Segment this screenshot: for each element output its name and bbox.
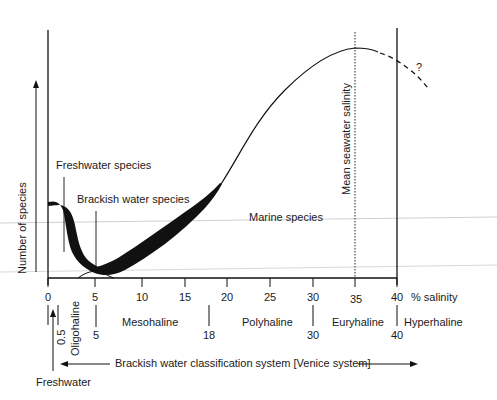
euryhaline-label: Euryhaline — [332, 317, 384, 328]
freshwater-species-curve — [48, 201, 108, 274]
bound-0.5-label: 0.5 — [56, 330, 67, 345]
mean-seawater-label: Mean seawater salinity — [341, 83, 352, 195]
venice-system-label: Brackish water classification system [Ve… — [115, 358, 371, 369]
arrow-head-icon — [410, 361, 418, 367]
freshwater-species-label: Freshwater species — [56, 160, 151, 171]
x-tick-label: 30 — [307, 292, 319, 303]
mesohaline-label: Mesohaline — [122, 317, 178, 328]
oligohaline-label: Oligohaline — [70, 301, 81, 356]
arrow-head-icon — [60, 361, 68, 367]
bound-5-label: 5 — [93, 330, 99, 341]
faint-guide-line — [0, 265, 497, 272]
arrow-head-icon — [50, 309, 56, 317]
freshwater-label: Freshwater — [36, 377, 91, 388]
x-tick-label: 0 — [45, 292, 51, 303]
bound-30-label: 30 — [307, 330, 319, 341]
x-axis-unit-label: % salinity — [411, 292, 457, 303]
bound-40-label: 40 — [391, 330, 403, 341]
hyperhaline-label: Hyperhaline — [404, 317, 463, 328]
x-tick-label: 15 — [179, 292, 191, 303]
polyhaline-label: Polyhaline — [242, 317, 293, 328]
arrow-head-icon — [33, 80, 39, 88]
uncertain-marker: ? — [416, 62, 422, 73]
marine-species-curve — [221, 48, 378, 184]
marine-species-label: Marine species — [249, 212, 323, 223]
x-axis-ticks — [48, 278, 397, 287]
x-tick-label: 25 — [264, 292, 276, 303]
x-tick-label: 10 — [136, 292, 148, 303]
y-axis-label: Number of species — [17, 182, 28, 274]
x-tick-label: 35 — [350, 294, 362, 305]
brackish-species-label: Brackish water species — [77, 194, 190, 205]
x-tick-label: 20 — [221, 292, 233, 303]
x-tick-label: 40 — [391, 292, 403, 303]
x-tick-label: 5 — [92, 292, 98, 303]
bound-18-label: 18 — [203, 330, 215, 341]
